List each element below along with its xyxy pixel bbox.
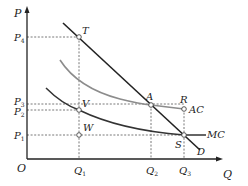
mc-curve-label: MC bbox=[206, 129, 225, 140]
y-axis-arrow-icon bbox=[25, 6, 30, 13]
x-axis-label: Q bbox=[223, 168, 232, 181]
guide-lines bbox=[27, 37, 184, 159]
origin-label: O bbox=[17, 162, 26, 175]
point-t-label: T bbox=[82, 25, 90, 36]
point-w-label: W bbox=[83, 122, 94, 133]
ac-curve-label: AC bbox=[188, 104, 204, 115]
cost-curves-diagram: P Q O P4 P3 P2 P1 Q1 Q2 Q3 T A V R W S A… bbox=[0, 0, 248, 186]
point-r-label: R bbox=[179, 94, 188, 105]
point-w bbox=[77, 133, 82, 138]
y-axis-label: P bbox=[13, 7, 22, 20]
demand-curve-label: D bbox=[196, 146, 205, 157]
axes bbox=[27, 11, 218, 159]
point-v bbox=[77, 108, 82, 113]
q1-label: Q1 bbox=[74, 165, 86, 177]
point-s-label: S bbox=[175, 139, 182, 150]
p1-label: P1 bbox=[13, 130, 25, 142]
point-t bbox=[77, 35, 82, 40]
point-a-label: A bbox=[145, 91, 153, 102]
q3-label: Q3 bbox=[179, 165, 191, 177]
point-r bbox=[182, 107, 187, 112]
point-a bbox=[149, 103, 154, 108]
x-axis-arrow-icon bbox=[216, 157, 223, 162]
point-s bbox=[182, 133, 187, 138]
point-v-label: V bbox=[82, 98, 91, 109]
p4-label: P4 bbox=[13, 32, 25, 44]
q2-label: Q2 bbox=[146, 165, 158, 177]
